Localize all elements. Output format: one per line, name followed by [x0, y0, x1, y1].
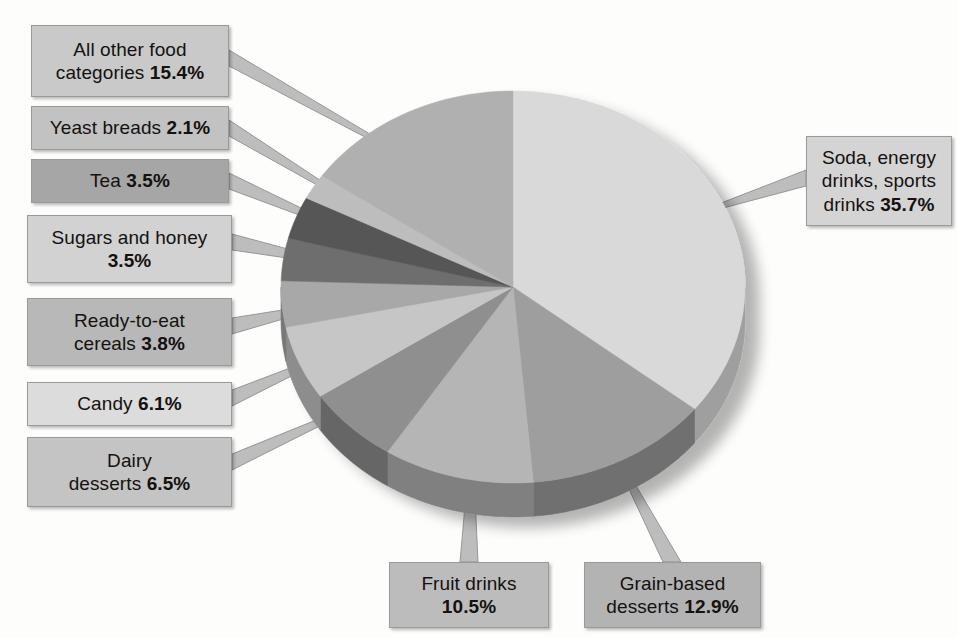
callout-fruit-drinks[interactable]: Fruit drinks10.5% — [389, 562, 549, 628]
callout-percent: 15.4% — [150, 62, 204, 83]
pie-3d-group — [281, 91, 745, 517]
callout-percent: 6.1% — [138, 393, 182, 414]
callout-label: Dairydesserts 6.5% — [34, 449, 225, 495]
callout-label: Ready-to-eatcereals 3.8% — [34, 309, 225, 355]
callout-percent: 3.8% — [141, 333, 185, 354]
pie-chart-figure: All other foodcategories 15.4% Yeast bre… — [0, 0, 957, 638]
callout-label: Fruit drinks10.5% — [396, 572, 542, 618]
callout-ready-to-eat-cereals[interactable]: Ready-to-eatcereals 3.8% — [27, 298, 232, 366]
callout-dairy-desserts[interactable]: Dairydesserts 6.5% — [27, 437, 232, 507]
callout-percent: 3.5% — [108, 250, 152, 271]
callout-yeast-breads[interactable]: Yeast breads 2.1% — [31, 106, 229, 150]
callout-label: Candy 6.1% — [34, 392, 225, 415]
callout-all-other-food-categories[interactable]: All other foodcategories 15.4% — [31, 25, 229, 97]
callout-soda-energy-sports-drinks[interactable]: Soda, energydrinks, sportsdrinks 35.7% — [806, 136, 952, 226]
callout-label: Tea 3.5% — [38, 169, 222, 192]
callout-percent: 12.9% — [684, 596, 738, 617]
callout-label: Grain-baseddesserts 12.9% — [591, 572, 754, 618]
callout-percent: 2.1% — [167, 117, 211, 138]
callout-tea[interactable]: Tea 3.5% — [31, 159, 229, 203]
callout-percent: 10.5% — [442, 596, 496, 617]
callout-candy[interactable]: Candy 6.1% — [27, 382, 232, 426]
callout-grain-based-desserts[interactable]: Grain-baseddesserts 12.9% — [584, 562, 761, 628]
callout-label: Sugars and honey3.5% — [34, 226, 225, 272]
callout-sugars-and-honey[interactable]: Sugars and honey3.5% — [27, 215, 232, 283]
callout-label: Soda, energydrinks, sportsdrinks 35.7% — [813, 146, 945, 216]
callout-percent: 6.5% — [147, 473, 191, 494]
callout-label: Yeast breads 2.1% — [38, 116, 222, 139]
callout-percent: 35.7% — [880, 194, 934, 215]
callout-label: All other foodcategories 15.4% — [38, 38, 222, 84]
callout-percent: 3.5% — [126, 170, 170, 191]
